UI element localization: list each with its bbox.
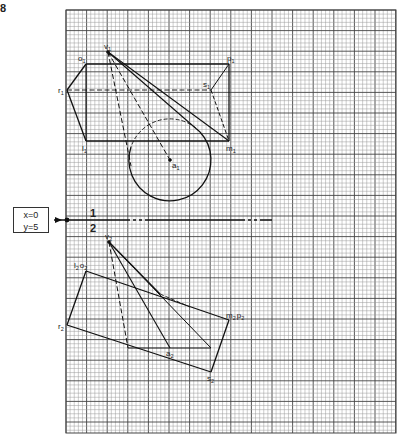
descriptive-geometry-drawing: 1 2 v1 o1 p1 r1 s1 l1 m1 a1 bbox=[0, 0, 407, 442]
origin-point-icon bbox=[65, 218, 70, 223]
graph-paper-grid bbox=[66, 10, 396, 433]
label-l2-o2: l2o2 bbox=[74, 261, 87, 271]
reference-y-value: y=5 bbox=[14, 221, 48, 233]
label-l1: l1 bbox=[82, 144, 87, 154]
reference-coordinates-box: x=0 y=5 bbox=[13, 207, 49, 233]
label-v2: v2 bbox=[105, 232, 112, 242]
arrow-head-icon bbox=[55, 217, 62, 223]
label-v1: v1 bbox=[104, 42, 111, 52]
label-s2: s2 bbox=[207, 374, 214, 384]
fold-label-1: 1 bbox=[90, 207, 96, 219]
label-a2: a2 bbox=[166, 349, 174, 359]
top-view-labels: v1 o1 p1 r1 s1 l1 m1 a1 bbox=[58, 42, 236, 171]
label-r1: r1 bbox=[58, 86, 64, 96]
label-m1: m1 bbox=[226, 144, 236, 154]
reference-x-value: x=0 bbox=[14, 209, 48, 221]
label-s1: s1 bbox=[203, 80, 210, 90]
front-view-labels: v2 l2o2 m2p2 r2 a2 s2 bbox=[58, 232, 244, 384]
label-r2: r2 bbox=[58, 322, 64, 332]
fold-label-2: 2 bbox=[90, 222, 96, 234]
